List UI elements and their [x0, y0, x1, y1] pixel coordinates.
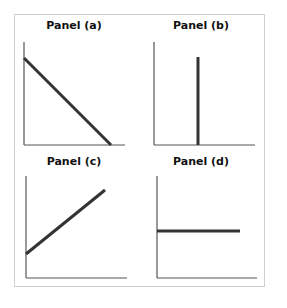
panel-c-line: [26, 190, 105, 254]
panels-graphics: [0, 0, 287, 308]
panel-b-chart: [154, 42, 255, 145]
panel-c-chart: [26, 176, 127, 278]
panel-a-chart: [24, 42, 125, 145]
panel-a-line: [24, 58, 111, 145]
panel-d-chart: [157, 176, 257, 278]
